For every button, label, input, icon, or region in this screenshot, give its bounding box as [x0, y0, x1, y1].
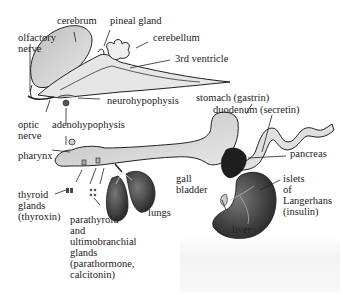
label-gall-bladder: gall bladder: [176, 173, 208, 195]
pancreas-shape: [221, 148, 246, 178]
endocrine-diagram: cerebrum pineal gland cerebellum olfacto…: [0, 0, 343, 295]
label-pancreas: pancreas: [290, 148, 327, 159]
thyroid-shape: [66, 188, 73, 193]
label-parathyroid-ultimobranchial: parathyroid and ultimobranchial glands (…: [70, 214, 136, 280]
label-lungs: lungs: [148, 207, 171, 218]
label-third-ventricle: 3rd ventricle: [175, 53, 228, 64]
adenohypophysis-shape: [63, 100, 69, 106]
label-pineal-gland: pineal gland: [110, 15, 162, 26]
label-adenohypophysis: adenohypophysis: [52, 119, 125, 130]
label-olfactory-nerve: olfactory nerve: [18, 32, 56, 54]
label-neurohypophysis: neurohypophysis: [107, 95, 179, 106]
label-thyroid-glands: thyroid glands (thyroxin): [18, 189, 61, 222]
label-optic-nerve: optic nerve: [18, 119, 41, 141]
label-cerebrum: cerebrum: [57, 15, 97, 26]
label-islets-of-langerhans: islets of Langerhans (insulin): [283, 173, 332, 217]
label-pharynx: pharynx: [18, 150, 52, 161]
olfactory-nerve-shape: [31, 85, 33, 98]
background-bleed-through: [180, 236, 340, 292]
label-stomach: stomach (gastrin): [196, 92, 269, 103]
label-duodenum: duodenum (secretin): [213, 104, 300, 115]
label-cerebellum: cerebellum: [153, 32, 200, 43]
label-liver: liver: [232, 224, 251, 235]
parathyroid-shape: [90, 189, 97, 197]
